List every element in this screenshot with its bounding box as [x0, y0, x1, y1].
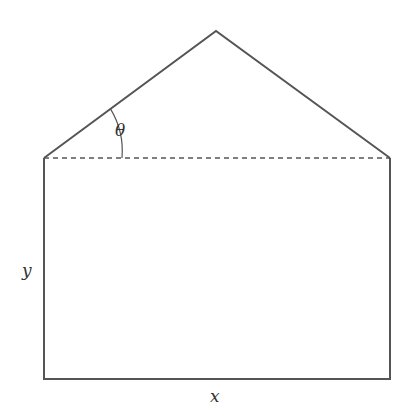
triangle-roof	[44, 31, 390, 158]
width-x-label: x	[210, 386, 220, 406]
angle-theta-label: θ	[115, 120, 125, 140]
rectangle-body	[44, 158, 390, 379]
pentagon-diagram: θ y x	[0, 0, 409, 420]
height-y-label: y	[21, 260, 32, 280]
